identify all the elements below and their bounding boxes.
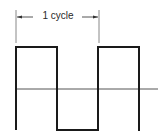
cycle-arrow-left	[17, 16, 33, 19]
cycle-label: 1 cycle	[34, 10, 82, 22]
square-wave-diagram	[0, 0, 165, 138]
cycle-arrow-right	[82, 16, 98, 19]
